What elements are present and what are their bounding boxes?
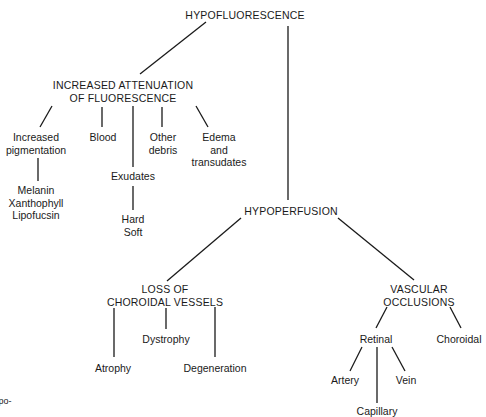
node-increased-attenuation: INCREASED ATTENUATION OF FLUORESCENCE: [53, 79, 193, 104]
node-hypofluorescence: HYPOFLUORESCENCE: [185, 9, 304, 22]
node-retinal: Retinal: [360, 333, 393, 346]
margin-text-fragment: po-: [0, 395, 12, 408]
node-exudate-types: Hard Soft: [122, 213, 145, 238]
hypofluorescence-diagram: HYPOFLUORESCENCE INCREASED ATTENUATION O…: [0, 0, 486, 417]
node-degeneration: Degeneration: [183, 362, 246, 375]
node-vascular-occlusions: VASCULAR OCCLUSIONS: [383, 283, 454, 308]
node-edema-transudates: Edema and transudates: [192, 131, 247, 169]
connector-lines: [0, 0, 486, 417]
node-hypoperfusion: HYPOPERFUSION: [244, 205, 338, 218]
node-atrophy: Atrophy: [95, 362, 131, 375]
node-vein: Vein: [396, 374, 416, 387]
node-blood: Blood: [90, 131, 117, 144]
node-exudates: Exudates: [111, 170, 155, 183]
node-loss-of-choroidal-vessels: LOSS OF CHOROIDAL VESSELS: [107, 283, 223, 308]
node-other-debris: Other debris: [149, 131, 178, 156]
node-increased-pigmentation: Increased pigmentation: [6, 131, 66, 156]
node-capillary: Capillary: [357, 405, 398, 417]
node-choroidal: Choroidal: [437, 333, 482, 346]
node-pigment-types: Melanin Xanthophyll Lipofucsin: [9, 184, 64, 222]
node-artery: Artery: [331, 374, 359, 387]
node-dystrophy: Dystrophy: [142, 333, 189, 346]
